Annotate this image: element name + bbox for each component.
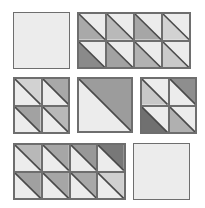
hst-block-top-right (77, 12, 191, 69)
half-square-triangle-cell (97, 172, 125, 200)
half-square-triangle-cell (97, 144, 125, 172)
half-square-triangle-cell (78, 78, 132, 132)
half-square-triangle-cell (42, 172, 70, 200)
plain-square-top-left (13, 12, 70, 69)
half-square-triangle-cell (14, 78, 42, 106)
half-square-triangle-cell (42, 106, 70, 134)
half-square-triangle-cell (141, 78, 169, 106)
hst-block-bottom-left (13, 143, 126, 200)
half-square-triangle-cell (14, 106, 42, 134)
half-square-triangle-cell (70, 144, 98, 172)
half-square-triangle-cell (42, 78, 70, 106)
half-square-triangle-cell (14, 172, 42, 200)
half-square-triangle-cell (78, 13, 106, 41)
half-square-triangle-cell (169, 78, 197, 106)
half-square-triangle-cell (134, 13, 162, 41)
half-square-triangle-cell (42, 144, 70, 172)
half-square-triangle-cell (141, 106, 169, 134)
half-square-triangle-cell (78, 41, 106, 69)
half-square-triangle-cell (70, 172, 98, 200)
half-square-triangle-cell (169, 106, 197, 134)
half-square-triangle-cell (106, 41, 134, 69)
half-square-triangle-cell (14, 144, 42, 172)
hst-block-middle-center (77, 77, 133, 133)
half-square-triangle-cell (106, 13, 134, 41)
half-square-triangle-cell (162, 41, 190, 69)
half-square-triangle-cell (162, 13, 190, 41)
half-square-triangle-cell (134, 41, 162, 69)
hst-block-middle-right (140, 77, 197, 134)
hst-block-middle-left (13, 77, 70, 134)
plain-square-bottom-right (133, 143, 190, 200)
